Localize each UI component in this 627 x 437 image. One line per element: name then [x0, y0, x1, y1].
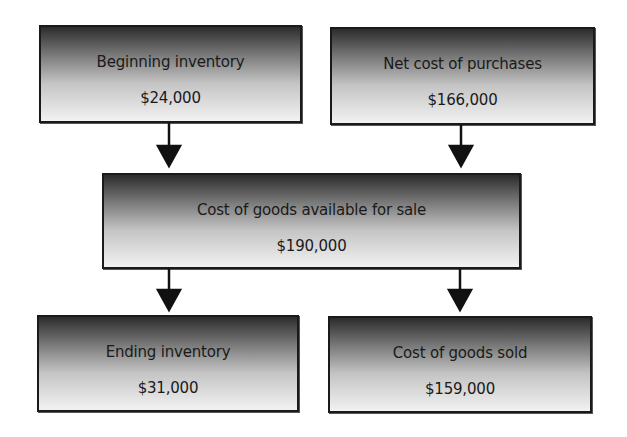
cost-of-goods-available-label: Cost of goods available for sale: [104, 201, 519, 219]
net-cost-of-purchases-box: Net cost of purchases $166,000: [330, 27, 595, 125]
beginning-inventory-box: Beginning inventory $24,000: [39, 25, 302, 123]
cost-of-goods-available-value: $190,000: [104, 237, 519, 255]
beginning-inventory-label: Beginning inventory: [41, 53, 300, 71]
cost-of-goods-available-box: Cost of goods available for sale $190,00…: [102, 173, 521, 269]
net-cost-of-purchases-label: Net cost of purchases: [332, 55, 593, 73]
ending-inventory-box: Ending inventory $31,000: [37, 315, 299, 412]
ending-inventory-label: Ending inventory: [39, 343, 297, 361]
net-cost-of-purchases-value: $166,000: [332, 91, 593, 109]
beginning-inventory-value: $24,000: [41, 89, 300, 107]
cost-of-goods-sold-value: $159,000: [330, 380, 590, 398]
cost-of-goods-sold-label: Cost of goods sold: [330, 344, 590, 362]
cost-of-goods-sold-box: Cost of goods sold $159,000: [328, 316, 592, 413]
ending-inventory-value: $31,000: [39, 379, 297, 397]
